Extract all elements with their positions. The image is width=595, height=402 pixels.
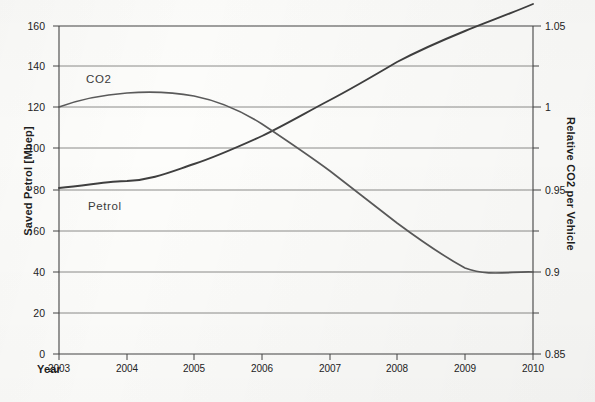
x-axis-ticks xyxy=(59,354,533,360)
chart-page: 160 140 120 100 80 60 40 20 0 1.05 1 0.9… xyxy=(0,0,595,402)
ytick-left-160: 160 xyxy=(5,20,45,32)
series-annotation-petrol: Petrol xyxy=(88,200,122,212)
right-axis-ticks xyxy=(533,26,541,354)
xtick-2004: 2004 xyxy=(97,363,157,374)
x-axis-title: Year xyxy=(37,363,61,375)
xtick-2008: 2008 xyxy=(367,363,427,374)
ytick-left-20: 20 xyxy=(5,307,45,319)
ytick-right-0-85: 0.85 xyxy=(545,348,585,360)
ytick-right-1-05: 1.05 xyxy=(545,20,585,32)
xtick-2006: 2006 xyxy=(232,363,292,374)
xtick-2005: 2005 xyxy=(164,363,224,374)
left-axis-ticks xyxy=(53,26,59,354)
series-line-petrol xyxy=(59,4,533,188)
xtick-2007: 2007 xyxy=(300,363,360,374)
xtick-2010: 2010 xyxy=(503,363,563,374)
y-axis-title-left: Saved Petrol [Mbep] xyxy=(22,91,34,271)
y-axis-title-right: Relative CO2 per Vehicle xyxy=(565,94,577,274)
xtick-2009: 2009 xyxy=(435,363,495,374)
ytick-left-140: 140 xyxy=(5,60,45,72)
gridlines xyxy=(59,66,533,313)
ytick-left-0: 0 xyxy=(5,348,45,360)
series-annotation-co2: CO2 xyxy=(86,73,111,85)
